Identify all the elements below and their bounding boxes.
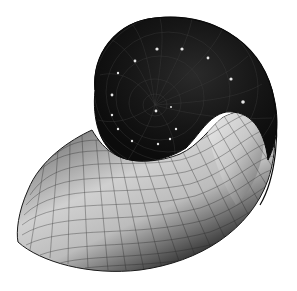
image-canvas — [0, 0, 297, 291]
nautilus-shell-illustration — [0, 0, 297, 291]
